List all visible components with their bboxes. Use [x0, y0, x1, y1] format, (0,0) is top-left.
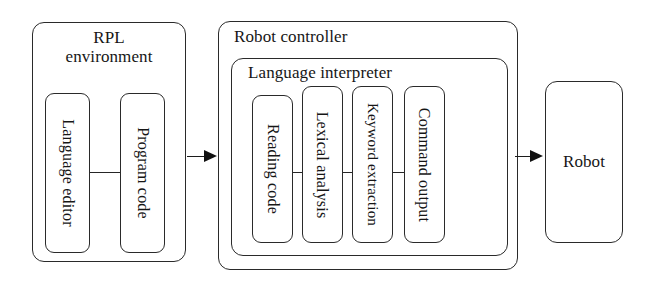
connector-lexical-analysis-to-keyword-extraction [343, 172, 352, 173]
box-command-output[interactable]: Command output [404, 86, 445, 243]
box-lexical-analysis-label-wrap: Lexical analysis [303, 87, 342, 242]
box-program-code-label: Program code [135, 127, 151, 219]
box-keyword-extraction-label-wrap: Keyword extraction [353, 87, 392, 242]
box-keyword-extraction-label: Keyword extraction [365, 103, 380, 226]
box-reading-code[interactable]: Reading code [252, 95, 293, 243]
box-program-code[interactable]: Program code [120, 93, 165, 253]
group-robot-controller-label: Robot controller [234, 27, 514, 46]
box-keyword-extraction[interactable]: Keyword extraction [352, 86, 393, 243]
connector-reading-code-to-lexical-analysis [293, 172, 302, 173]
box-language-editor-label-wrap: Language editor [46, 94, 89, 252]
box-reading-code-label: Reading code [265, 124, 281, 214]
arrow-head [204, 150, 217, 162]
box-program-code-label-wrap: Program code [121, 94, 164, 252]
box-command-output-label-wrap: Command output [405, 87, 444, 242]
box-reading-code-label-wrap: Reading code [253, 96, 292, 242]
box-lexical-analysis[interactable]: Lexical analysis [302, 86, 343, 243]
connector-language-editor-to-program-code [90, 172, 120, 173]
diagram-canvas: RPL environment Language editor Program … [0, 0, 652, 288]
connector-keyword-extraction-to-command-output [393, 172, 404, 173]
box-language-editor[interactable]: Language editor [45, 93, 90, 253]
box-language-editor-label: Language editor [60, 119, 76, 226]
box-command-output-label: Command output [417, 107, 433, 221]
arrow-head [530, 150, 543, 162]
group-language-interpreter-label: Language interpreter [248, 63, 508, 82]
box-lexical-analysis-label: Lexical analysis [315, 111, 331, 218]
box-robot-label: Robot [545, 152, 623, 171]
group-rpl-environment-label: RPL environment [36, 28, 182, 66]
